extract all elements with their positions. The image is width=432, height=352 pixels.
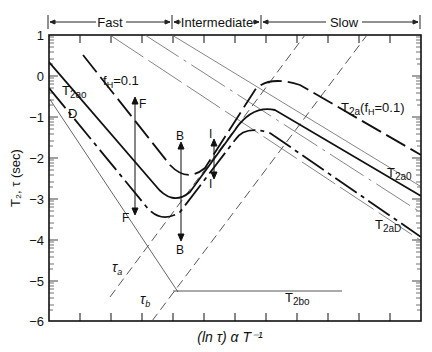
y-tick-label: −3 bbox=[29, 192, 44, 207]
f-label-bottom: F bbox=[122, 211, 129, 225]
tau-a-label: τa bbox=[112, 259, 122, 277]
y-tick-label: 1 bbox=[37, 28, 44, 43]
y-tick-label: 0 bbox=[37, 69, 44, 84]
f-label-top: F bbox=[139, 97, 146, 111]
f-arrow bbox=[132, 97, 138, 215]
x-axis-label: (ln τ) α T⁻¹ bbox=[197, 329, 263, 345]
i-label-bottom: I bbox=[209, 177, 212, 191]
t2bo-label: T2bo bbox=[285, 290, 310, 307]
i-arrow bbox=[211, 139, 217, 179]
b-arrow bbox=[178, 142, 184, 241]
region-fast-label: Fast bbox=[97, 15, 123, 30]
t2ao-label: T2ao bbox=[62, 83, 87, 100]
t2a-fh-label: T2a(fH=0.1) bbox=[341, 100, 405, 117]
t2a0-label: T2a0 bbox=[387, 165, 412, 182]
y-tick-label: −6 bbox=[29, 314, 44, 329]
y-tick-label: −4 bbox=[29, 233, 44, 248]
y-tick-label: −1 bbox=[29, 110, 44, 125]
t2aD-label: T2aD bbox=[375, 217, 401, 234]
y-axis-label: T₂, τ (sec) bbox=[8, 149, 23, 207]
thin-descending-line-1 bbox=[145, 35, 420, 212]
fh-label: fH=0.1 bbox=[103, 73, 139, 90]
d-label: D bbox=[68, 106, 77, 121]
y-tick-label: −2 bbox=[29, 151, 44, 166]
thin-descending-line-3 bbox=[110, 35, 420, 240]
y-tick-label: −5 bbox=[29, 274, 44, 289]
i-label-top: I bbox=[209, 127, 212, 141]
b-label-top: B bbox=[176, 129, 184, 143]
tau-b-line bbox=[152, 35, 367, 321]
relaxation-chart: Fast Intermediate Slow 1 0 −1 −2 bbox=[0, 0, 432, 352]
region-intermediate-label: Intermediate bbox=[181, 15, 253, 30]
region-slow-label: Slow bbox=[330, 15, 359, 30]
b-label-bottom: B bbox=[176, 243, 184, 257]
tau-b-label: τb bbox=[140, 291, 150, 309]
